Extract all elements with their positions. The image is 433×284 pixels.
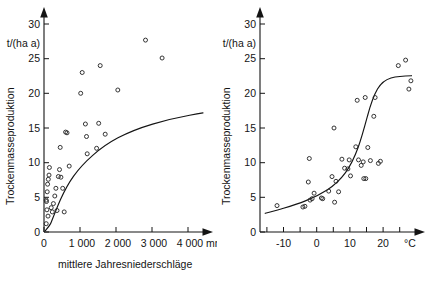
fit-curve-temperature <box>265 76 411 214</box>
y-ticks-temperature <box>260 24 265 232</box>
y-ticklabel-25: 25 <box>28 52 40 64</box>
x-ticklabels-precipitation: 0 1 000 2 000 3 000 4 000 <box>41 237 203 249</box>
temperature-plot: 0 5 10 15 20 25 30 -10 0 10 20 °C t/(ha … <box>216 0 433 284</box>
x-axis-unit-celsius: °C <box>404 237 416 249</box>
y-ticklabel-30: 30 <box>28 18 40 30</box>
x-ticks-temperature <box>267 227 400 232</box>
x-ticklabel-4000: 4 000 <box>177 237 203 249</box>
x-ticklabel-0: 0 <box>314 237 320 249</box>
y-ticklabel-20: 20 <box>28 87 40 99</box>
y-ticklabel-20: 20 <box>244 87 256 99</box>
chart-panel-temperature: 0 5 10 15 20 25 30 -10 0 10 20 °C t/(ha … <box>216 0 433 284</box>
y-axis-title: Trockenmasseproduktion <box>4 87 16 205</box>
x-ticklabel-0: 0 <box>41 237 47 249</box>
x-ticklabel-2000: 2 000 <box>105 237 131 249</box>
y-axis-arrow-icon <box>40 7 48 18</box>
y-axis-arrow-icon <box>256 7 264 18</box>
y-ticklabel-0: 0 <box>250 226 256 238</box>
y-ticklabel-5: 5 <box>34 191 40 203</box>
y-ticklabel-15: 15 <box>244 122 256 134</box>
y-ticklabel-0: 0 <box>34 226 40 238</box>
y-ticklabels-temperature: 0 5 10 15 20 25 30 <box>244 18 256 238</box>
x-ticklabel-10: 10 <box>344 237 356 249</box>
y-ticklabel-15: 15 <box>28 122 40 134</box>
y-ticklabel-25: 25 <box>244 52 256 64</box>
axes-temperature <box>256 7 425 236</box>
x-ticks-precipitation <box>44 227 188 232</box>
x-ticklabels-temperature: -10 0 10 20 <box>276 237 389 249</box>
y-axis-unit-label: t/(ha a) <box>7 37 40 49</box>
y-ticklabel-5: 5 <box>250 191 256 203</box>
x-ticklabel-20: 20 <box>377 237 389 249</box>
y-axis-title: Trockenmasseproduktion <box>220 87 232 205</box>
scatter-points-temperature <box>275 58 413 209</box>
x-axis-arrow-icon <box>415 228 426 236</box>
fit-curve-precipitation <box>45 113 203 231</box>
chart-panel-precipitation: 0 5 10 15 20 25 30 0 1 000 2 000 3 000 4… <box>0 0 217 284</box>
axes-precipitation <box>40 7 213 236</box>
scatter-points-precipitation <box>44 38 164 226</box>
x-ticklabel-minus10: -10 <box>276 237 291 249</box>
x-ticklabel-1000: 1 000 <box>69 237 95 249</box>
y-axis-unit-label: t/(ha a) <box>223 37 256 49</box>
y-ticklabel-10: 10 <box>28 156 40 168</box>
figure-root: 0 5 10 15 20 25 30 0 1 000 2 000 3 000 4… <box>0 0 433 284</box>
precipitation-plot: 0 5 10 15 20 25 30 0 1 000 2 000 3 000 4… <box>0 0 217 284</box>
y-ticklabels-precipitation: 0 5 10 15 20 25 30 <box>28 18 40 238</box>
y-ticklabel-30: 30 <box>244 18 256 30</box>
y-ticklabel-10: 10 <box>244 156 256 168</box>
x-ticklabel-3000: 3 000 <box>141 237 167 249</box>
caption-precipitation: mittlere Jahresniederschläge <box>58 258 192 270</box>
x-axis-arrow-icon <box>203 228 214 236</box>
